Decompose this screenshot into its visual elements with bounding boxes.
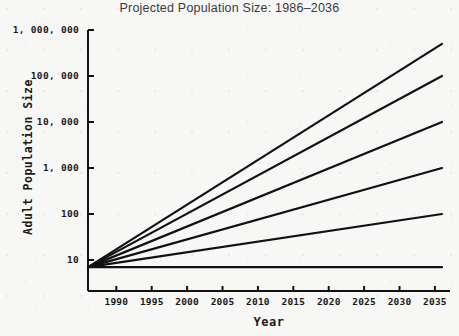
series-line-growth-rate-1 — [88, 44, 442, 267]
series-line-growth-rate-3 — [88, 122, 442, 267]
series-line-growth-rate-5 — [88, 214, 442, 267]
series-line-growth-rate-2 — [88, 76, 442, 267]
data-series-group — [88, 44, 442, 267]
series-line-growth-rate-4 — [88, 168, 442, 267]
chart-plot-area — [0, 0, 459, 336]
